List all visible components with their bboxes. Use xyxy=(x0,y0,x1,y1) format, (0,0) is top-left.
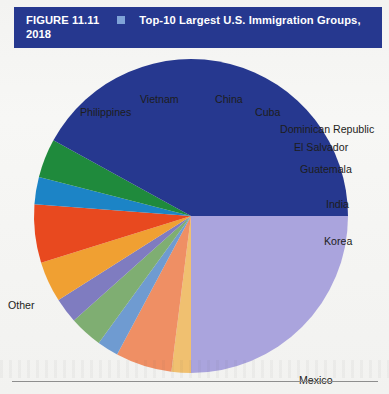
figure-title-line2: 2018 xyxy=(26,27,374,42)
chart-area: Philippines Vietnam China Cuba Dominican… xyxy=(0,44,389,374)
figure-header-line1: FIGURE 11.11Top-10 Largest U.S. Immigrat… xyxy=(26,12,374,27)
figure-header: FIGURE 11.11Top-10 Largest U.S. Immigrat… xyxy=(14,7,382,48)
pie-label-india: India xyxy=(326,199,349,210)
figure-title-line1: Top-10 Largest U.S. Immigration Groups, xyxy=(139,13,360,28)
pie-label-china: China xyxy=(215,94,243,105)
pie-label-guatemala: Guatemala xyxy=(300,164,352,175)
pie-label-philippines: Philippines xyxy=(80,107,131,118)
page-bleed-texture xyxy=(0,360,389,378)
pie-label-other: Other xyxy=(8,300,35,311)
pie-label-dominican-republic: Dominican Republic xyxy=(280,124,374,135)
pie-label-el-salvador: El Salvador xyxy=(294,142,348,153)
pie-label-cuba: Cuba xyxy=(255,107,280,118)
pie-label-vietnam: Vietnam xyxy=(140,94,179,105)
figure-bottom-rule xyxy=(12,381,378,382)
pie-label-korea: Korea xyxy=(324,236,352,247)
blue-square-bullet-icon xyxy=(117,16,125,24)
figure-number: FIGURE 11.11 xyxy=(26,13,99,28)
